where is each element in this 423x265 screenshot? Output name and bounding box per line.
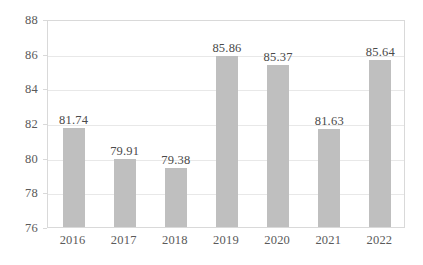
bar-value-label: 81.63	[315, 114, 344, 129]
bar[interactable]	[63, 128, 85, 227]
bar[interactable]	[318, 129, 340, 227]
bar-value-label: 85.64	[366, 45, 395, 60]
bar-group: 85.86	[201, 21, 252, 227]
bar[interactable]	[267, 65, 289, 227]
bar[interactable]	[216, 56, 238, 227]
bar-group: 85.37	[253, 21, 304, 227]
x-axis-tick-label: 2017	[111, 233, 137, 248]
bar[interactable]	[165, 168, 187, 227]
bar-value-label: 79.91	[110, 144, 139, 159]
y-axis-tick-label: 88	[25, 13, 38, 28]
y-axis-tick-label: 80	[25, 151, 38, 166]
bar[interactable]	[114, 159, 136, 227]
bar-chart: 76788082848688 81.7479.9179.3885.8685.37…	[0, 0, 423, 265]
y-axis: 76788082848688	[0, 20, 47, 228]
x-axis-tick-label: 2018	[162, 233, 188, 248]
x-axis: 2016201720182019202020212022	[47, 230, 405, 254]
y-axis-tick-label: 82	[25, 117, 38, 132]
bar-group: 85.64	[355, 21, 406, 227]
x-axis-tick-label: 2016	[60, 233, 86, 248]
y-axis-tick-label: 86	[25, 47, 38, 62]
y-axis-tick-label: 84	[25, 82, 38, 97]
x-axis-tick-label: 2020	[264, 233, 290, 248]
plot-area: 81.7479.9179.3885.8685.3781.6385.64	[47, 20, 405, 228]
y-axis-tick-label: 76	[25, 221, 38, 236]
x-axis-tick-label: 2022	[367, 233, 393, 248]
bar-group: 81.63	[304, 21, 355, 227]
bar-value-label: 85.37	[264, 50, 293, 65]
bar-value-label: 85.86	[212, 41, 241, 56]
y-axis-tick-label: 78	[25, 186, 38, 201]
bar-group: 79.91	[99, 21, 150, 227]
x-axis-tick-label: 2019	[213, 233, 239, 248]
y-axis-tick-mark	[43, 228, 47, 229]
bar[interactable]	[369, 60, 391, 227]
bar-value-label: 79.38	[161, 153, 190, 168]
bar-group: 81.74	[48, 21, 99, 227]
x-axis-tick-label: 2021	[315, 233, 341, 248]
bar-value-label: 81.74	[59, 113, 88, 128]
bar-group: 79.38	[150, 21, 201, 227]
